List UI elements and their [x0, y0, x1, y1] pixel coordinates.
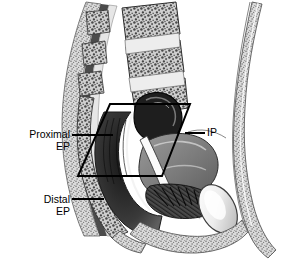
label-distal-ep: Distal EP: [18, 193, 70, 217]
label-proximal-ep: Proximal EP: [8, 128, 70, 152]
label-ip: IP: [207, 126, 231, 138]
caption-strip: [0, 258, 298, 265]
